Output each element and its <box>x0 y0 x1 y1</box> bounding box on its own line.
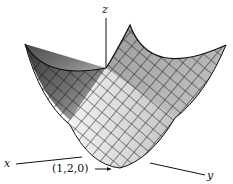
surface-plot <box>0 0 233 184</box>
point-annotation: (1,2,0) <box>52 163 89 174</box>
y-axis <box>150 163 205 175</box>
z-axis-label: z <box>102 4 108 15</box>
paraboloid-figure: z x y (1,2,0) <box>0 0 233 184</box>
y-axis-label: y <box>207 170 213 181</box>
x-axis-label: x <box>4 158 10 169</box>
